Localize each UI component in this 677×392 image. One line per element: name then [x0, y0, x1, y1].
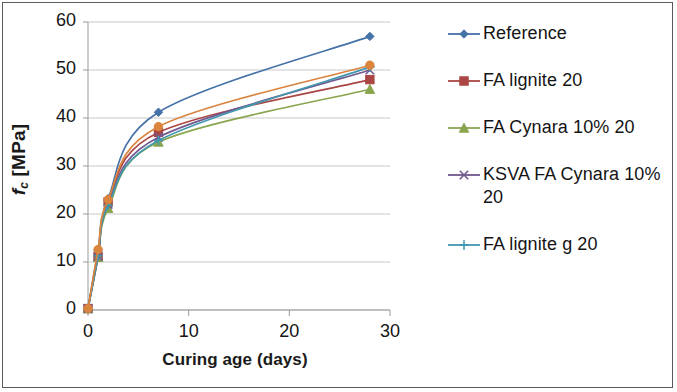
data-point-marker [84, 304, 92, 312]
data-point-marker [460, 77, 468, 85]
chart-figure: fc [MPa] Curing age (days) 0102030405060… [0, 0, 677, 392]
legend-item[interactable]: FA lignite 20 [447, 69, 675, 92]
data-point-marker [154, 108, 162, 116]
cross-marker-icon [447, 234, 481, 256]
series-fa-lignite-g-20 [83, 62, 374, 313]
legend-item-label: Reference [483, 22, 567, 45]
legend-item-label: FA lignite 20 [483, 69, 582, 92]
x-tick-label: 30 [370, 321, 410, 342]
data-point-marker [154, 122, 162, 130]
legend-item-label: FA Cynara 10% 20 [483, 116, 635, 139]
y-tick-label: 20 [30, 202, 76, 223]
series-line [88, 65, 370, 308]
series-unlabeled-5 [84, 61, 374, 313]
data-point-marker [104, 195, 112, 203]
data-point-marker [365, 85, 374, 94]
legend-item[interactable]: KSVA FA Cynara 10% 20 [447, 163, 675, 209]
x-tick-label: 10 [169, 321, 209, 342]
y-tick-label: 40 [30, 106, 76, 127]
square-marker-icon [447, 70, 481, 92]
y-tick-label: 50 [30, 58, 76, 79]
legend-item-label: KSVA FA Cynara 10% 20 [483, 163, 675, 209]
data-point-marker [94, 245, 102, 253]
y-tick-label: 60 [30, 10, 76, 31]
y-tick-label: 10 [30, 250, 76, 271]
data-point-marker [366, 61, 374, 69]
series-line [88, 80, 370, 309]
x-tick-label: 0 [68, 321, 108, 342]
y-axis-title: fc [MPa] [8, 95, 31, 225]
diamond-marker-icon [447, 23, 481, 45]
chart-legend: ReferenceFA lignite 20FA Cynara 10% 20KS… [447, 22, 675, 280]
series-fa-cynara-10-20 [83, 85, 374, 313]
data-point-marker [460, 30, 468, 38]
data-point-marker [459, 240, 468, 249]
x-axis-title: Curing age (days) [70, 350, 400, 370]
y-tick-label: 0 [30, 298, 76, 319]
series-line [88, 70, 370, 309]
series-line [88, 36, 370, 308]
series-line [88, 89, 370, 308]
axis-ticks [83, 22, 390, 316]
y-tick-label: 30 [30, 154, 76, 175]
series-line [88, 67, 370, 308]
plot-area: fc [MPa] Curing age (days) 0102030405060… [0, 0, 420, 392]
data-series-layer [83, 32, 374, 313]
series-ksva-fa-cynara-10-20 [84, 66, 374, 313]
x-tick-label: 20 [269, 321, 309, 342]
x-marker-icon [447, 164, 481, 186]
triangle-marker-icon [447, 117, 481, 139]
series-reference [84, 32, 374, 313]
data-point-marker [366, 75, 374, 83]
gridlines [88, 22, 390, 310]
legend-item[interactable]: FA lignite g 20 [447, 233, 675, 256]
legend-item[interactable]: Reference [447, 22, 675, 45]
data-point-marker [366, 32, 374, 40]
legend-item-label: FA lignite g 20 [483, 233, 598, 256]
legend-item[interactable]: FA Cynara 10% 20 [447, 116, 675, 139]
